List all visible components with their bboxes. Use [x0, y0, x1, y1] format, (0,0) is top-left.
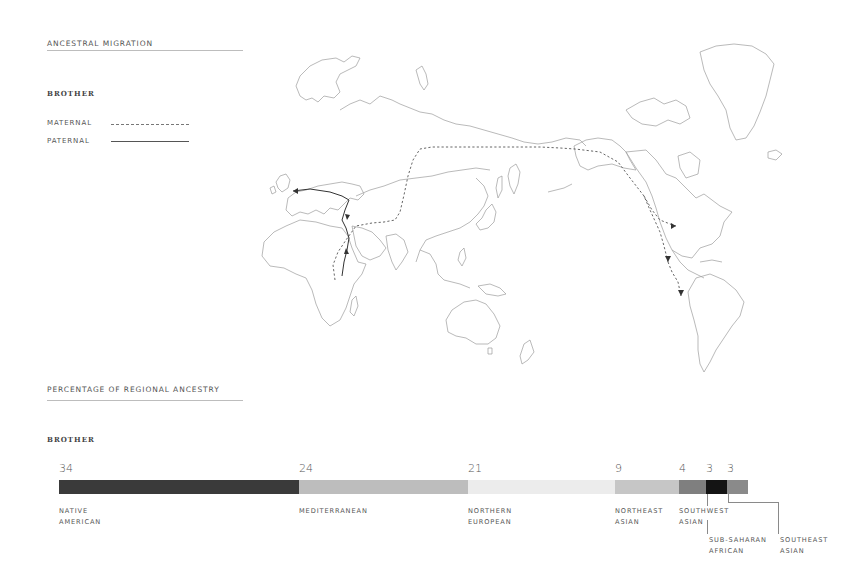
- value-southwest-asian: 4: [679, 462, 686, 475]
- ancestry-stacked-bar: [59, 480, 748, 494]
- leader-southeast-asian-h: [728, 502, 778, 503]
- label-northern-european: NORTHERN EUROPEAN: [468, 506, 512, 528]
- label-mediterranean: MEDITERRANEAN: [299, 506, 368, 517]
- segment-native-american: [59, 480, 299, 494]
- arrowhead-sa: [678, 290, 684, 296]
- label-sub-saharan-african: SUB-SAHARAN AFRICAN: [709, 535, 767, 557]
- legend-paternal-line: [111, 141, 189, 142]
- label-northeast-asian: NORTHEAST ASIAN: [615, 506, 663, 528]
- legend-maternal-line: [111, 124, 189, 125]
- value-northeast-asian: 9: [615, 462, 622, 475]
- leader-southeast-asian-v2: [778, 502, 779, 534]
- value-southeast-asian: 3: [727, 462, 734, 475]
- value-northern-european: 21: [468, 462, 482, 475]
- label-southwest-asian: SOUTHWEST ASIAN: [679, 506, 729, 528]
- legend-maternal-label: MATERNAL: [47, 119, 92, 127]
- migration-title-divider: [47, 50, 243, 51]
- segment-southeast-asian: [727, 480, 748, 494]
- segment-mediterranean: [299, 480, 468, 494]
- maternal-route-branch-east: [644, 196, 676, 226]
- arrowhead-europe: [293, 188, 298, 194]
- segment-northeast-asian: [615, 480, 679, 494]
- leader-southeast-asian-v1: [728, 494, 729, 502]
- segment-sub-saharan-african: [706, 480, 727, 494]
- ancestry-subject-label: BROTHER: [47, 435, 95, 444]
- legend-paternal-label: PATERNAL: [47, 137, 90, 145]
- maternal-route: [333, 147, 668, 280]
- paternal-route: [293, 189, 349, 276]
- segment-northern-european: [468, 480, 615, 494]
- ancestry-section-title: PERCENTAGE OF REGIONAL ANCESTRY: [47, 385, 220, 394]
- label-southeast-asian: SOUTHEAST ASIAN: [780, 535, 828, 557]
- value-mediterranean: 24: [299, 462, 313, 475]
- leader-sub-saharan-african-lower: [707, 520, 708, 534]
- label-native-american: NATIVE AMERICAN: [59, 506, 101, 528]
- segment-southwest-asian: [679, 480, 706, 494]
- leader-sub-saharan-african: [707, 494, 708, 506]
- value-native-american: 34: [59, 462, 73, 475]
- value-sub-saharan-african: 3: [706, 462, 713, 475]
- world-map: [255, 30, 855, 390]
- arrowhead-na-south: [665, 256, 671, 262]
- migration-subject-label: BROTHER: [47, 89, 95, 98]
- arrowhead-caucasus: [345, 214, 350, 220]
- arrowhead-na-east: [671, 223, 676, 229]
- ancestry-title-divider: [47, 400, 243, 401]
- migration-section-title: ANCESTRAL MIGRATION: [47, 39, 153, 48]
- arrowhead-egypt: [344, 248, 349, 254]
